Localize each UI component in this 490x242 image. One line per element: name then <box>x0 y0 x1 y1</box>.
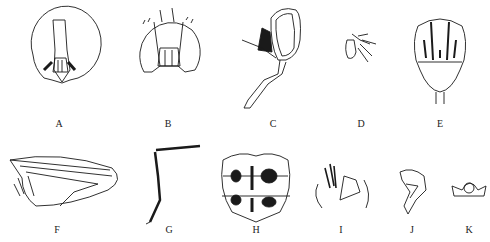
panel-b-drawing <box>140 8 200 72</box>
panel-g-drawing <box>146 146 200 224</box>
panel-label-a: A <box>55 118 62 129</box>
panel-label-k: K <box>465 224 472 235</box>
panel-label-i: I <box>339 224 342 235</box>
panel-k-drawing <box>452 183 486 196</box>
panel-label-h: H <box>252 224 259 235</box>
figure: A B C D E F G H I J K <box>0 0 490 242</box>
drawings <box>0 0 490 242</box>
panel-label-j: J <box>410 224 414 235</box>
panel-label-b: B <box>165 118 172 129</box>
panel-d-drawing <box>346 34 376 62</box>
panel-label-g: G <box>165 224 172 235</box>
panel-label-d: D <box>357 118 364 129</box>
panel-f-drawing <box>10 156 118 206</box>
panel-e-drawing <box>414 19 465 104</box>
panel-label-e: E <box>437 118 443 129</box>
panel-a-drawing <box>31 6 101 83</box>
panel-c-drawing <box>242 9 301 108</box>
panel-label-c: C <box>270 118 277 129</box>
panel-h-drawing <box>222 154 290 222</box>
panel-label-f: F <box>54 224 60 235</box>
panel-i-drawing <box>316 164 369 208</box>
panel-j-drawing <box>400 170 426 214</box>
